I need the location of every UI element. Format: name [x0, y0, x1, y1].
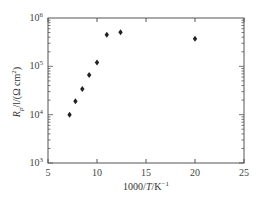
data-point — [67, 112, 71, 118]
y-tick-label: 104 — [30, 108, 44, 120]
axis-ticks — [48, 18, 244, 163]
data-point — [95, 60, 99, 66]
x-tick-label: 25 — [239, 167, 249, 178]
plot-frame — [48, 18, 244, 163]
x-tick-label: 15 — [141, 167, 151, 178]
data-point — [73, 98, 77, 104]
y-tick-labels: 103104105106 — [30, 11, 44, 168]
x-axis-label: 1000/T/K−1 — [123, 180, 169, 192]
x-tick-label: 20 — [190, 167, 200, 178]
data-points — [67, 29, 197, 118]
y-axis-label: Rp/l/(Ω cm2) — [10, 67, 25, 118]
y-tick-label: 103 — [30, 156, 44, 168]
x-tick-labels: 510152025 — [46, 167, 250, 178]
data-point — [87, 72, 91, 78]
x-tick-label: 10 — [92, 167, 102, 178]
x-tick-label: 5 — [46, 167, 51, 178]
data-point — [105, 32, 109, 38]
chart: 510152025 103104105106 1000/T/K−1 Rp/l/(… — [0, 0, 264, 206]
y-tick-label: 105 — [30, 59, 44, 71]
data-point — [80, 86, 84, 92]
data-point — [118, 29, 122, 35]
data-point — [193, 36, 197, 42]
y-tick-label: 106 — [30, 11, 44, 23]
